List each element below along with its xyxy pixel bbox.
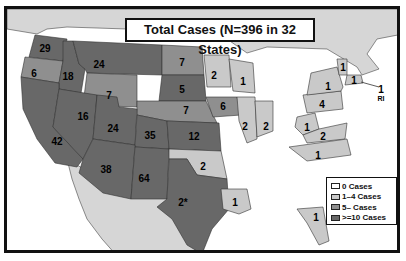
state-label-il: 2: [242, 121, 248, 132]
state-label-ut: 24: [107, 123, 118, 134]
state-label-vt: 1: [340, 62, 346, 73]
legend-item-high: >=10 Cases: [331, 213, 392, 224]
legend-label: 1–4 Cases: [342, 192, 381, 201]
legend-item-mid: 5– Cases: [331, 202, 392, 213]
state-label-sd: 5: [179, 84, 185, 95]
map-title: Total Cases (N=396 in 32 States): [125, 18, 315, 42]
legend-item-low: 1–4 Cases: [331, 192, 392, 203]
state-label-la: 1: [232, 197, 238, 208]
state-label-va: 2: [320, 131, 326, 142]
state-label-ne: 7: [183, 105, 189, 116]
state-label-mn: 2: [211, 70, 217, 81]
state-label-nm: 64: [138, 173, 149, 184]
legend-swatch: [331, 215, 340, 221]
state-label-wi: 1: [240, 76, 246, 87]
state-nm: [131, 147, 169, 199]
state-mt: [73, 41, 162, 75]
legend-label: >=10 Cases: [342, 213, 386, 222]
state-label-wy: 7: [106, 90, 112, 101]
legend-item-zero: 0 Cases: [331, 181, 392, 192]
legend: 0 Cases 1–4 Cases 5– Cases >=10 Cases: [326, 177, 397, 225]
legend-swatch: [331, 204, 340, 210]
legend-label: 5– Cases: [342, 203, 377, 212]
state-label-nv: 16: [77, 111, 88, 122]
state-label-mt: 24: [93, 59, 104, 70]
state-label-ny: 1: [325, 81, 331, 92]
state-label-wa: 29: [39, 43, 50, 54]
legend-label: 0 Cases: [342, 182, 372, 191]
state-label-ri: 1: [378, 84, 384, 95]
state-label-wv: 1: [304, 122, 310, 133]
legend-swatch: [331, 183, 340, 189]
state-label-in: 2: [263, 121, 269, 132]
ri-leader-line: [361, 82, 379, 87]
state-label-ia: 6: [220, 101, 226, 112]
state-label-ma: 1: [351, 75, 357, 86]
state-label-ok: 2: [200, 161, 206, 172]
state-in: [255, 101, 273, 137]
state-label-or: 6: [31, 68, 37, 79]
state-label-nc: 1: [315, 150, 321, 161]
map-frame: Total Cases (N=396 in 32 States) 2961824…: [4, 6, 400, 253]
state-label-pa: 4: [319, 99, 325, 110]
state-label-tx: 2*: [178, 197, 187, 208]
legend-swatch: [331, 194, 340, 200]
state-abbrev-ri: RI: [378, 95, 385, 102]
state-label-ks: 12: [188, 131, 199, 142]
state-label-nd: 7: [179, 57, 185, 68]
state-label-id: 18: [62, 71, 73, 82]
state-label-fl: 1: [313, 212, 319, 223]
state-label-ca: 42: [51, 136, 62, 147]
state-label-co: 35: [144, 130, 155, 141]
state-label-az: 38: [100, 164, 111, 175]
